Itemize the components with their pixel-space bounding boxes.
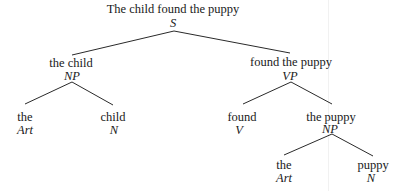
predicate-words: found the puppy (250, 56, 332, 69)
edge-np2-n (332, 134, 373, 156)
object-art-words: the (276, 159, 291, 172)
predicate-category: VP (282, 70, 297, 83)
parse-tree-diagram: The child found the puppy S the child NP… (0, 0, 405, 191)
edge-vp-v (243, 82, 291, 104)
subject-noun-words: child (101, 111, 126, 124)
object-category: NP (322, 123, 338, 136)
object-art-category: Art (276, 172, 292, 185)
subject-art-category: Art (17, 124, 33, 137)
verb-words: found (227, 111, 256, 124)
root-category: S (170, 17, 176, 30)
edge-np-art (25, 82, 72, 104)
object-noun-category: N (367, 172, 375, 185)
tree-edges (0, 0, 405, 191)
subject-words: the child (49, 57, 92, 70)
edge-s-np (72, 31, 174, 55)
subject-category: NP (64, 70, 80, 83)
edge-vp-np (291, 82, 332, 104)
verb-category: V (235, 124, 243, 137)
object-noun-words: puppy (357, 159, 388, 172)
edge-s-vp (174, 31, 290, 53)
edge-np-n (72, 82, 113, 105)
root-words: The child found the puppy (107, 3, 240, 16)
edge-np2-art (284, 134, 332, 155)
subject-noun-category: N (110, 124, 118, 137)
subject-art-words: the (17, 111, 32, 124)
